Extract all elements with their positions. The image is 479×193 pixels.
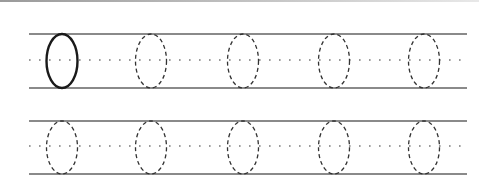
trace-letter-o — [319, 121, 350, 174]
trace-letter-o — [136, 34, 167, 88]
practice-row — [29, 121, 467, 174]
trace-letter-o — [228, 121, 259, 174]
tracing-worksheet — [0, 0, 479, 193]
example-letter-o — [47, 34, 78, 88]
trace-letter-o — [409, 34, 440, 88]
trace-letter-o — [319, 34, 350, 88]
trace-letter-o — [409, 121, 440, 174]
trace-letter-o — [228, 34, 259, 88]
practice-row — [29, 34, 467, 88]
trace-letter-o — [47, 121, 78, 174]
trace-letter-o — [136, 121, 167, 174]
